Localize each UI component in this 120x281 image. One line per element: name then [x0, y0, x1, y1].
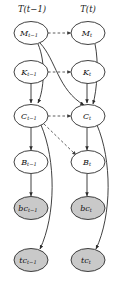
node-k-prev[interactable]: Kt−1 — [14, 61, 48, 84]
bayesian-network-graph: T(t−1) T(t) — [0, 0, 120, 281]
node-c-cur[interactable]: Ct — [71, 105, 105, 128]
node-b-prev[interactable]: Bt−1 — [14, 151, 48, 174]
node-m-cur[interactable]: Mt — [71, 22, 105, 45]
node-c-prev[interactable]: Ct−1 — [14, 105, 48, 128]
edge-cprev-to-tcprev — [40, 125, 52, 249]
node-tc-prev[interactable]: tct−1 — [14, 249, 48, 272]
slice-title-previous: T(t−1) — [18, 4, 46, 14]
node-m-prev[interactable]: Mt−1 — [14, 22, 48, 45]
node-bc-prev[interactable]: bct−1 — [14, 197, 48, 220]
node-tc-cur[interactable]: tct — [71, 249, 105, 272]
node-b-cur[interactable]: Bt — [71, 151, 105, 174]
diagram-canvas: T(t−1) T(t) — [0, 0, 120, 281]
slice-title-current: T(t) — [80, 4, 96, 14]
node-k-cur[interactable]: Kt — [71, 61, 105, 84]
node-bc-cur[interactable]: bct — [71, 197, 105, 220]
edge-ccur-to-tccur — [96, 125, 108, 249]
